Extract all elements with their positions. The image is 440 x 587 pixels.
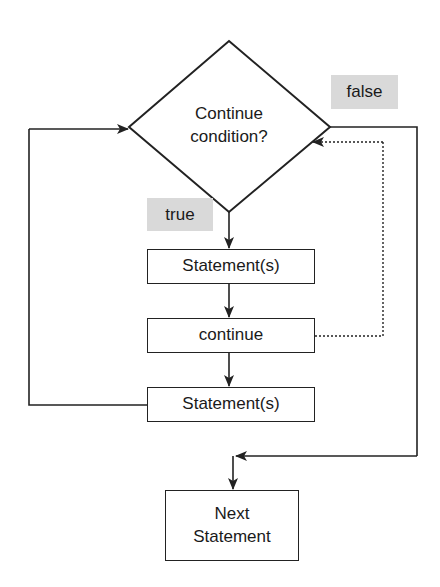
- statement-box-2: Statement(s): [147, 387, 315, 422]
- statement-box-1: Statement(s): [147, 249, 315, 284]
- true-label: true: [147, 198, 213, 231]
- continue-box: continue: [147, 318, 315, 353]
- decision-line1: Continue: [159, 103, 299, 126]
- decision-line2: condition?: [159, 126, 299, 149]
- next-line1: Next: [215, 503, 250, 526]
- next-statement-box: Next Statement: [165, 490, 299, 561]
- decision-text: Continue condition?: [159, 103, 299, 149]
- next-line2: Statement: [193, 526, 271, 549]
- false-label: false: [331, 75, 398, 109]
